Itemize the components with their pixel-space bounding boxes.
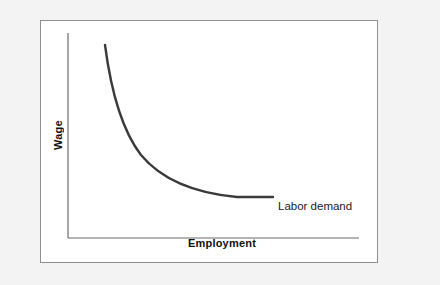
labor-demand-label: Labor demand xyxy=(278,201,352,213)
figure-frame: Wage Employment Labor demand xyxy=(40,20,378,263)
x-axis-title: Employment xyxy=(41,237,377,249)
labor-demand-curve xyxy=(105,45,273,197)
labor-demand-chart xyxy=(41,21,379,264)
plot-area: Wage Employment Labor demand xyxy=(41,21,377,262)
y-axis-title: Wage xyxy=(48,105,68,165)
